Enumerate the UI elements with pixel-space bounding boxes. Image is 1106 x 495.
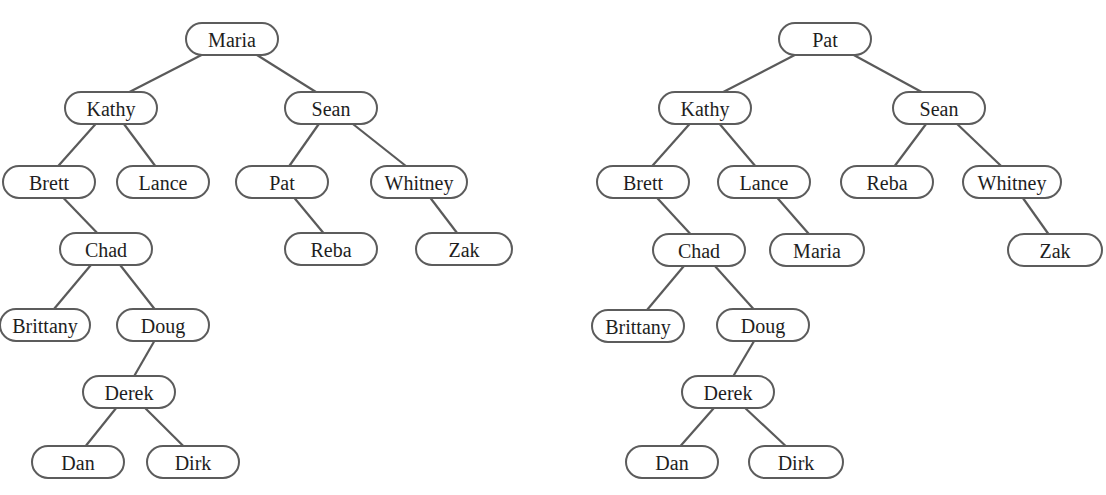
node-zak: Zak [1008,234,1102,266]
node-kathy: Kathy [659,92,751,124]
node-dirk: Dirk [147,446,239,478]
node-sean: Sean [893,92,985,124]
node-label: Lance [139,172,188,194]
node-whitney: Whitney [371,166,467,198]
node-label: Dan [61,452,94,474]
node-reba: Reba [285,233,377,265]
edge-doug-derek [133,339,155,378]
left-tree-nodes: MariaKathySeanBrettLancePatWhitneyChadRe… [0,23,512,478]
node-chad: Chad [653,234,745,266]
node-label: Dirk [175,452,212,474]
edge-kathy-lance [718,122,757,168]
node-label: Whitney [978,172,1047,195]
node-label: Chad [85,239,127,261]
node-label: Zak [1039,240,1070,262]
node-label: Pat [812,29,838,51]
node-label: Brittany [605,316,671,339]
node-maria: Maria [770,234,864,266]
node-brittany: Brittany [592,310,684,342]
node-label: Reba [310,239,351,261]
node-label: Kathy [681,98,730,121]
edge-kathy-brett [56,122,97,168]
edge-pat-reba [293,196,325,235]
node-reba: Reba [841,166,933,198]
node-pat: Pat [779,23,871,55]
edge-derek-dan [679,406,716,448]
node-label: Doug [741,315,785,338]
edge-sean-reba [893,122,927,168]
edge-lance-maria [776,196,811,236]
node-label: Sean [312,98,351,120]
right-tree-nodes: PatKathySeanBrettLanceRebaWhitneyChadMar… [592,23,1102,478]
edge-doug-derek [732,339,755,378]
node-brett: Brett [597,166,689,198]
node-label: Brett [623,172,663,194]
edge-pat-kathy [719,53,798,94]
node-dirk: Dirk [749,446,843,478]
node-derek: Derek [83,376,175,408]
node-label: Dan [655,452,688,474]
edge-derek-dirk [143,406,185,448]
node-brittany: Brittany [0,309,90,341]
right-tree: PatKathySeanBrettLanceRebaWhitneyChadMar… [592,23,1102,478]
edge-maria-sean [254,53,319,94]
node-label: Maria [793,240,841,262]
node-label: Dirk [778,452,815,474]
edge-sean-whitney [350,122,408,168]
edge-chad-brittany [52,263,92,311]
node-label: Sean [920,98,959,120]
node-label: Pat [269,172,295,194]
node-label: Reba [866,172,907,194]
node-label: Brett [29,172,69,194]
edge-sean-pat [288,122,320,168]
node-derek: Derek [682,376,774,408]
left-tree: MariaKathySeanBrettLancePatWhitneyChadRe… [0,23,512,478]
edge-whitney-zak [1021,196,1049,236]
edge-maria-kathy [126,53,206,94]
binary-trees-diagram: MariaKathySeanBrettLancePatWhitneyChadRe… [0,0,1106,495]
edge-brett-chad [655,196,692,236]
node-kathy: Kathy [65,92,157,124]
node-label: Brittany [12,315,78,338]
edge-pat-sean [850,53,925,94]
node-label: Whitney [385,172,454,195]
node-zak: Zak [416,233,512,265]
node-label: Chad [678,240,720,262]
node-lance: Lance [117,166,209,198]
edge-derek-dan [84,406,118,448]
node-maria: Maria [186,23,278,55]
node-label: Lance [740,172,789,194]
node-whitney: Whitney [963,166,1061,198]
node-dan: Dan [626,446,718,478]
edge-whitney-zak [429,196,459,235]
node-brett: Brett [3,166,95,198]
edge-chad-doug [713,264,755,311]
node-label: Doug [141,315,185,338]
edge-kathy-brett [650,122,691,168]
node-label: Derek [105,382,154,404]
node-doug: Doug [717,309,809,341]
node-lance: Lance [718,166,810,198]
edge-chad-brittany [645,264,685,312]
node-dan: Dan [32,446,124,478]
edge-kathy-lance [122,122,156,168]
node-pat: Pat [236,166,328,198]
edge-brett-chad [62,196,100,235]
edge-sean-whitney [955,122,1003,168]
node-label: Kathy [87,98,136,121]
edge-derek-dirk [743,406,788,448]
node-label: Maria [208,29,256,51]
node-chad: Chad [60,233,152,265]
node-sean: Sean [285,92,377,124]
node-label: Zak [448,239,479,261]
edge-chad-doug [119,263,157,311]
node-label: Derek [704,382,753,404]
node-doug: Doug [117,309,209,341]
